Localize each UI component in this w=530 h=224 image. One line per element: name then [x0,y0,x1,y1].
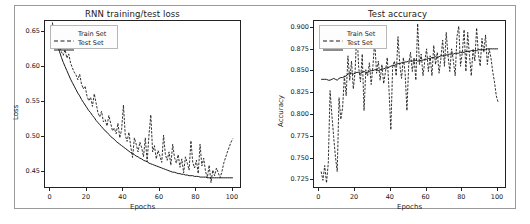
legend-entry-train: Train Set [323,29,382,38]
y-tick-mark [310,158,313,159]
x-tick-mark [122,188,123,191]
y-tick-mark [41,66,44,67]
legend-label-test: Test Set [78,39,104,47]
accuracy-chart-panel: Test accuracy Accuracy 0.9000.8750.8500.… [265,0,530,224]
y-tick-mark [310,27,313,28]
y-tick-mark [310,114,313,115]
x-tick-label: 0 [35,193,63,201]
x-tick-mark [390,188,391,191]
loss-chart-ylabel: Loss [12,105,20,120]
y-tick-label: 0.45 [14,167,40,175]
x-tick-label: 60 [145,193,173,201]
y-tick-label: 0.55 [14,97,40,105]
y-tick-label: 0.725 [283,175,309,183]
x-tick-label: 100 [483,193,511,201]
x-tick-mark [195,188,196,191]
loss-chart-panel: RNN training/test loss Loss 0.650.600.55… [0,0,265,224]
y-tick-mark [310,49,313,50]
y-tick-mark [41,136,44,137]
y-tick-mark [41,101,44,102]
x-tick-mark [159,188,160,191]
y-tick-label: 0.65 [14,27,40,35]
y-tick-label: 0.800 [283,110,309,118]
legend-entry-test: Test Set [54,38,113,47]
legend-label-train: Train Set [347,30,375,38]
x-tick-mark [86,188,87,191]
x-tick-mark [497,188,498,191]
solid-line-icon [54,39,74,47]
y-tick-label: 0.50 [14,132,40,140]
dashed-line-icon [54,30,74,38]
accuracy-chart-title: Test accuracy [265,9,530,19]
x-tick-mark [318,188,319,191]
y-tick-mark [41,31,44,32]
accuracy-chart-legend: Train Set Test Set [319,25,387,49]
y-tick-label: 0.825 [283,88,309,96]
accuracy-chart-xlabel: Epochs [313,203,506,211]
x-tick-label: 80 [447,193,475,201]
figure: RNN training/test loss Loss 0.650.600.55… [0,0,530,224]
y-tick-label: 0.850 [283,66,309,74]
x-tick-label: 40 [376,193,404,201]
y-tick-mark [310,136,313,137]
loss-chart-legend: Train Set Test Set [50,25,118,49]
x-tick-mark [232,188,233,191]
x-tick-mark [426,188,427,191]
x-tick-label: 20 [340,193,368,201]
y-tick-mark [41,171,44,172]
legend-label-test: Test Set [347,39,373,47]
y-tick-label: 0.900 [283,23,309,31]
x-tick-label: 0 [304,193,332,201]
x-tick-label: 20 [72,193,100,201]
x-tick-label: 40 [108,193,136,201]
loss-chart-xlabel: Epochs [44,203,241,211]
y-tick-mark [310,92,313,93]
y-tick-label: 0.775 [283,132,309,140]
x-tick-label: 60 [412,193,440,201]
dashed-line-icon [323,30,343,38]
y-tick-label: 0.750 [283,154,309,162]
x-tick-label: 80 [181,193,209,201]
legend-label-train: Train Set [78,30,106,38]
legend-entry-train: Train Set [54,29,113,38]
y-tick-mark [310,179,313,180]
x-tick-label: 100 [218,193,246,201]
y-tick-mark [310,70,313,71]
legend-entry-test: Test Set [323,38,382,47]
loss-chart-title: RNN training/test loss [0,9,265,19]
x-tick-mark [49,188,50,191]
x-tick-mark [461,188,462,191]
y-tick-label: 0.875 [283,45,309,53]
x-tick-mark [354,188,355,191]
solid-line-icon [323,39,343,47]
y-tick-label: 0.60 [14,62,40,70]
